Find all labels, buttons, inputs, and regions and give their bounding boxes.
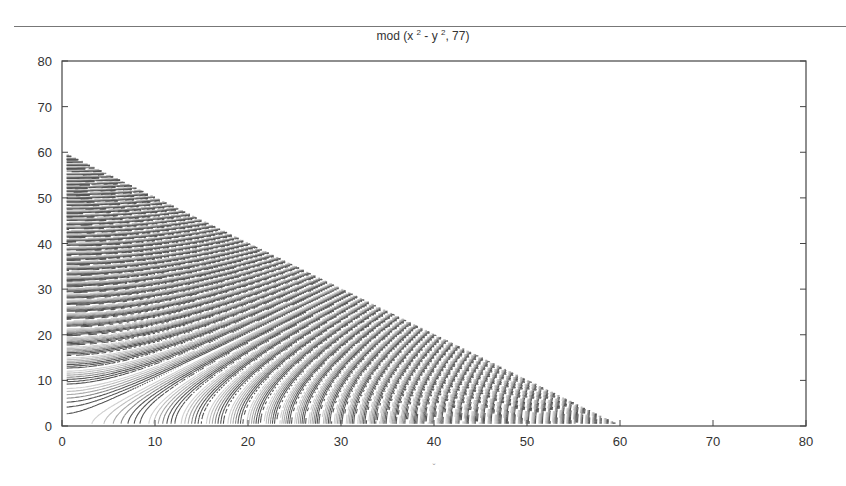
x-axis-label: ˇ — [433, 462, 436, 472]
contour-level-40 — [67, 156, 613, 424]
x-tick-label: 80 — [799, 434, 813, 449]
contour-plot: 01020304050607080 01020304050607080 ˇ — [0, 0, 846, 486]
y-tick-label: 20 — [38, 328, 52, 343]
y-tick-label: 50 — [38, 191, 52, 206]
x-tick-label: 30 — [334, 434, 348, 449]
x-tick-label: 0 — [58, 434, 65, 449]
x-tick-label: 10 — [148, 434, 162, 449]
y-tick-label: 70 — [38, 100, 52, 115]
y-tick-label: 40 — [38, 237, 52, 252]
contour-lines — [67, 155, 615, 424]
x-tick-label: 50 — [520, 434, 534, 449]
y-tick-label: 60 — [38, 145, 52, 160]
x-tick-label: 40 — [427, 434, 441, 449]
y-tick-label: 10 — [38, 373, 52, 388]
x-tick-label: 20 — [241, 434, 255, 449]
x-axis: 01020304050607080 — [58, 420, 813, 449]
y-tick-label: 80 — [38, 54, 52, 69]
x-tick-label: 70 — [706, 434, 720, 449]
y-tick-label: 0 — [45, 419, 52, 434]
x-tick-label: 60 — [613, 434, 627, 449]
y-tick-label: 30 — [38, 282, 52, 297]
